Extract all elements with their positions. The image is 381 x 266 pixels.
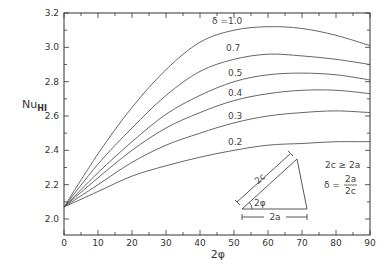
x-axis-title: 2φ: [211, 248, 225, 261]
curve-label: 0.5: [228, 68, 242, 78]
y-axis-title-main: Nu: [22, 98, 37, 111]
x-tick-label: 20: [126, 238, 138, 248]
hyp-dimension-tick-start: [235, 200, 240, 205]
inset-base-label: 2a: [269, 212, 280, 222]
curve-label: δ =1.0: [212, 16, 242, 26]
x-tick-label: 0: [61, 238, 67, 248]
y-tick-label: 2.8: [45, 77, 60, 87]
y-tick-label: 2.0: [45, 214, 60, 224]
x-tick-label: 90: [364, 238, 376, 248]
y-axis-title: NuHI: [22, 98, 47, 113]
condition-label: 2c ≥ 2a: [325, 160, 360, 170]
y-tick-label: 3.2: [45, 8, 59, 18]
y-tick-label: 3.0: [45, 42, 60, 52]
angle-arc: [250, 203, 253, 210]
triangle-side: [297, 159, 307, 209]
x-tick-label: 30: [160, 238, 172, 248]
x-tick-label: 50: [228, 238, 240, 248]
curve-label: 0.3: [228, 111, 242, 121]
inset-angle-label: 2φ: [254, 198, 266, 208]
x-tick-label: 40: [194, 238, 206, 248]
axis-ticks: 01020304050607080902.02.22.42.62.83.03.2: [45, 8, 376, 248]
curve-label: 0.2: [228, 137, 242, 147]
curve-delta-0.3: [64, 111, 370, 207]
triangle-hypotenuse: [242, 159, 297, 209]
delta-def-lhs: δ =: [324, 180, 340, 190]
x-tick-label: 10: [92, 238, 104, 248]
curve-label: 0.4: [228, 88, 243, 98]
x-tick-label: 80: [330, 238, 342, 248]
curve-labels: δ =1.00.70.50.40.30.2: [212, 16, 243, 147]
x-tick-label: 70: [296, 238, 308, 248]
plot-border: [64, 13, 370, 235]
inset-triangle-diagram: [235, 151, 307, 220]
y-axis-title-sub: HI: [37, 104, 47, 113]
delta-def-denominator: 2c: [345, 186, 356, 196]
curve-label: 0.7: [226, 43, 240, 53]
x-tick-label: 60: [262, 238, 274, 248]
chart: 01020304050607080902.02.22.42.62.83.03.2…: [0, 0, 381, 266]
y-tick-label: 2.4: [45, 145, 60, 155]
y-tick-label: 2.2: [45, 180, 59, 190]
inset-hyp-label: 2c: [253, 171, 268, 186]
plot-frame: [64, 13, 370, 235]
delta-def-numerator: 2a: [345, 174, 356, 184]
